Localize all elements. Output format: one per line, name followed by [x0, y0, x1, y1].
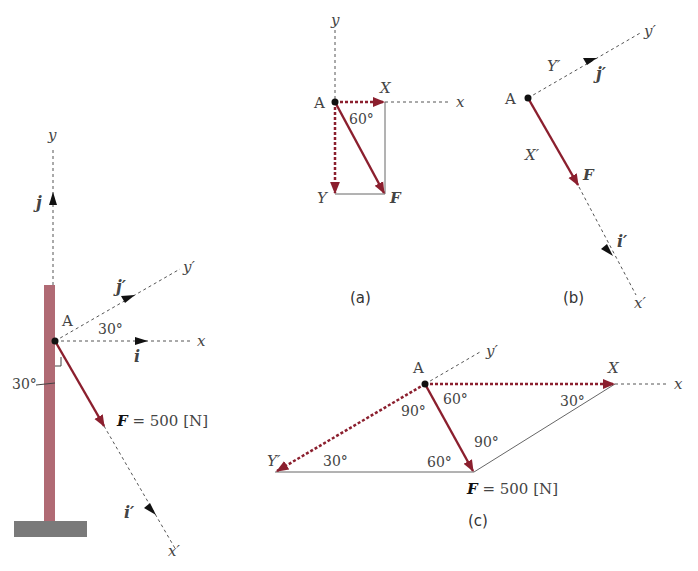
unit-i-prime-label: i′	[124, 503, 135, 522]
ground-block	[14, 521, 87, 537]
c-right-side	[474, 384, 615, 472]
a-component-y-label: Y	[317, 189, 329, 207]
angle-post-label: 30°	[12, 376, 37, 392]
a-point-a	[332, 99, 339, 106]
unit-j-prime-label: j′	[113, 277, 127, 296]
unit-i-arrow-icon	[135, 337, 148, 345]
y-prime-axis-label: y′	[182, 258, 195, 276]
b-component-x-prime-label: X′	[524, 146, 540, 164]
c-force-label: F = 500 [N]	[466, 480, 558, 498]
c-component-x-label: X	[607, 359, 620, 377]
c-point-a	[422, 381, 429, 388]
a-y-axis-label: y	[330, 11, 340, 29]
force-label: F = 500 [N]	[116, 412, 208, 430]
c-y-prime-axis-label: y′	[485, 342, 498, 360]
unit-i-prime-arrow-icon	[144, 503, 156, 515]
c-angle-f-right: 90°	[474, 434, 499, 450]
c-angle-y-vertex: 30°	[323, 453, 348, 469]
c-y-prime-axis	[425, 352, 480, 384]
post	[44, 285, 55, 523]
a-component-x-label: X	[379, 79, 392, 97]
y-axis-label: y	[47, 126, 57, 144]
c-angle-top-right: 60°	[443, 391, 468, 407]
point-a-label: A	[61, 312, 73, 330]
point-a	[52, 338, 59, 345]
c-component-y-prime-label: Y′	[267, 452, 281, 470]
c-angle-x-vertex: 30°	[560, 393, 585, 409]
c-caption: (c)	[468, 512, 488, 530]
c-angle-f-left: 60°	[427, 454, 452, 470]
angle-axes-label: 30°	[98, 321, 123, 337]
b-unit-i-prime-arrow-icon	[601, 244, 613, 256]
b-caption: (b)	[563, 289, 584, 307]
a-point-a-label: A	[313, 94, 325, 112]
c-angle-top-left: 90°	[401, 403, 426, 419]
a-x-axis-label: x	[456, 93, 465, 111]
a-force-label: F	[389, 189, 402, 207]
b-point-a	[525, 95, 532, 102]
c-point-a-label: A	[412, 359, 424, 377]
b-force-arrow	[528, 98, 578, 185]
force-decomposition-diagram: y j x i y′ j′ 30° A x′ i′ 30° F = 500 [N…	[0, 0, 698, 571]
angle-post-mark	[55, 357, 61, 366]
b-point-a-label: A	[504, 90, 516, 108]
c-x-axis-label: x	[674, 375, 683, 393]
figure-a: y x A X Y F 60° (a)	[313, 11, 465, 307]
b-force-label: F	[582, 166, 595, 184]
figure-b: y′ j′ Y′ x′ i′ A X′ F (b)	[504, 22, 656, 312]
b-x-prime-axis-label: x′	[634, 294, 646, 312]
b-component-y-prime-label: Y′	[547, 57, 561, 75]
b-unit-j-prime-arrow-icon	[583, 58, 597, 65]
unit-j-arrow-icon	[49, 192, 57, 205]
unit-j-label: j	[33, 193, 42, 212]
b-y-prime-axis	[528, 32, 642, 98]
figure-c: y′ x A X Y′ 60° 90° 30° 30° 60° 90° F = …	[267, 342, 683, 530]
a-angle-label: 60°	[349, 111, 374, 127]
b-unit-j-prime-label: j′	[593, 64, 607, 83]
x-prime-axis-label: x′	[168, 542, 180, 560]
b-y-prime-axis-label: y′	[643, 22, 656, 40]
main-figure: y j x i y′ j′ 30° A x′ i′ 30° F = 500 [N…	[12, 126, 208, 560]
c-component-y-prime-arrow	[277, 384, 425, 471]
x-axis-label: x	[197, 332, 206, 350]
unit-i-label: i	[134, 347, 140, 366]
force-arrow	[55, 341, 104, 426]
x-prime-axis	[104, 426, 176, 550]
b-x-prime-axis	[579, 187, 636, 295]
b-unit-i-prime-label: i′	[617, 232, 628, 251]
a-caption: (a)	[350, 289, 371, 307]
